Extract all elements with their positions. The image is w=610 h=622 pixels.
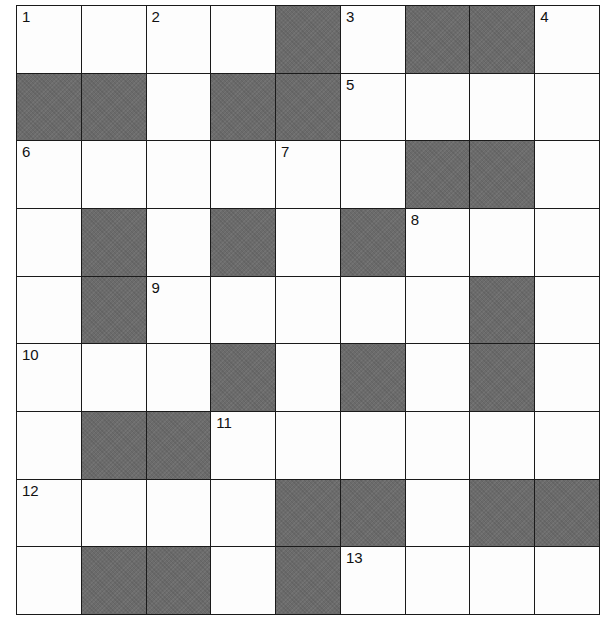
answer-cell[interactable]: [276, 277, 340, 344]
answer-cell[interactable]: [147, 344, 211, 411]
clue-number: 8: [411, 212, 419, 227]
block-cell: [406, 141, 470, 208]
block-cell: [406, 6, 470, 73]
block-cell: [211, 344, 275, 411]
answer-cell[interactable]: [341, 141, 405, 208]
answer-cell[interactable]: 2: [147, 6, 211, 73]
clue-number: 5: [346, 77, 354, 92]
clue-number: 12: [22, 483, 39, 498]
answer-cell[interactable]: [470, 547, 534, 614]
answer-cell[interactable]: [147, 74, 211, 141]
block-cell: [147, 547, 211, 614]
answer-cell[interactable]: [406, 412, 470, 479]
answer-cell[interactable]: [535, 209, 599, 276]
answer-cell[interactable]: [341, 412, 405, 479]
answer-cell[interactable]: [211, 141, 275, 208]
answer-cell[interactable]: [470, 74, 534, 141]
block-cell: [470, 141, 534, 208]
answer-cell[interactable]: [17, 277, 81, 344]
crossword-grid: 12345678910111213: [16, 5, 600, 615]
answer-cell[interactable]: [406, 547, 470, 614]
answer-cell[interactable]: [82, 480, 146, 547]
answer-cell[interactable]: [535, 412, 599, 479]
answer-cell[interactable]: [211, 547, 275, 614]
clue-number: 1: [22, 9, 30, 24]
block-cell: [470, 480, 534, 547]
block-cell: [82, 547, 146, 614]
block-cell: [276, 547, 340, 614]
answer-cell[interactable]: 4: [535, 6, 599, 73]
clue-number: 4: [540, 9, 548, 24]
answer-cell[interactable]: [17, 412, 81, 479]
answer-cell[interactable]: [147, 480, 211, 547]
clue-number: 11: [216, 415, 232, 430]
block-cell: [82, 412, 146, 479]
answer-cell[interactable]: [276, 209, 340, 276]
answer-cell[interactable]: 3: [341, 6, 405, 73]
answer-cell[interactable]: [82, 344, 146, 411]
block-cell: [470, 344, 534, 411]
answer-cell[interactable]: [17, 547, 81, 614]
block-cell: [211, 209, 275, 276]
block-cell: [341, 209, 405, 276]
block-cell: [147, 412, 211, 479]
answer-cell[interactable]: [535, 141, 599, 208]
clue-number: 7: [281, 144, 289, 159]
answer-cell[interactable]: 11: [211, 412, 275, 479]
answer-cell[interactable]: [211, 6, 275, 73]
answer-cell[interactable]: [82, 6, 146, 73]
clue-number: 9: [152, 280, 160, 295]
block-cell: [276, 74, 340, 141]
block-cell: [82, 209, 146, 276]
answer-cell[interactable]: 1: [17, 6, 81, 73]
answer-cell[interactable]: [406, 74, 470, 141]
answer-cell[interactable]: 10: [17, 344, 81, 411]
block-cell: [82, 277, 146, 344]
clue-number: 10: [22, 347, 39, 362]
answer-cell[interactable]: [276, 344, 340, 411]
block-cell: [341, 480, 405, 547]
answer-cell[interactable]: 6: [17, 141, 81, 208]
answer-cell[interactable]: 7: [276, 141, 340, 208]
answer-cell[interactable]: 13: [341, 547, 405, 614]
answer-cell[interactable]: [82, 141, 146, 208]
answer-cell[interactable]: [406, 480, 470, 547]
answer-cell[interactable]: 12: [17, 480, 81, 547]
answer-cell[interactable]: [406, 344, 470, 411]
answer-cell[interactable]: 9: [147, 277, 211, 344]
clue-number: 6: [22, 144, 30, 159]
clue-number: 3: [346, 9, 354, 24]
block-cell: [82, 74, 146, 141]
answer-cell[interactable]: [211, 480, 275, 547]
answer-cell[interactable]: [147, 209, 211, 276]
block-cell: [470, 6, 534, 73]
answer-cell[interactable]: [470, 209, 534, 276]
block-cell: [211, 74, 275, 141]
block-cell: [276, 6, 340, 73]
answer-cell[interactable]: [341, 277, 405, 344]
answer-cell[interactable]: [276, 412, 340, 479]
block-cell: [341, 344, 405, 411]
answer-cell[interactable]: [535, 344, 599, 411]
answer-cell[interactable]: [535, 547, 599, 614]
answer-cell[interactable]: 8: [406, 209, 470, 276]
block-cell: [17, 74, 81, 141]
clue-number: 13: [346, 550, 363, 565]
block-cell: [535, 480, 599, 547]
answer-cell[interactable]: [535, 74, 599, 141]
answer-cell[interactable]: [147, 141, 211, 208]
answer-cell[interactable]: [211, 277, 275, 344]
clue-number: 2: [152, 9, 160, 24]
answer-cell[interactable]: [535, 277, 599, 344]
block-cell: [276, 480, 340, 547]
block-cell: [470, 277, 534, 344]
answer-cell[interactable]: 5: [341, 74, 405, 141]
answer-cell[interactable]: [470, 412, 534, 479]
answer-cell[interactable]: [17, 209, 81, 276]
answer-cell[interactable]: [406, 277, 470, 344]
